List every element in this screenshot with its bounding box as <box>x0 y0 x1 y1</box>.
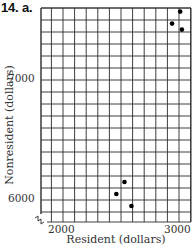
x-axis-label: Resident (dollars) <box>60 233 172 246</box>
data-point <box>178 9 183 14</box>
data-points <box>114 9 184 208</box>
data-point <box>180 27 185 32</box>
data-point <box>122 180 127 185</box>
grid-lines <box>41 8 191 222</box>
data-point <box>114 192 119 197</box>
data-point <box>129 204 134 209</box>
y-tick-label: 6000 <box>8 192 35 204</box>
data-point <box>170 21 175 26</box>
scatter-plot <box>0 0 196 249</box>
y-axis-label: Nonresident (dollars) <box>3 63 17 187</box>
axis-break-icon <box>33 214 47 228</box>
